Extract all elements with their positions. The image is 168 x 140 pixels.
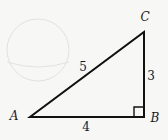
- vertex-label-b: B: [151, 112, 160, 124]
- vertex-label-a: A: [10, 110, 19, 122]
- right-angle-marker: [134, 107, 144, 117]
- triangle-abc: [30, 32, 144, 117]
- side-label-bc: 3: [147, 70, 155, 82]
- ghost-sphere: [7, 19, 69, 81]
- side-label-ac: 5: [79, 61, 87, 73]
- side-label-ab: 4: [82, 121, 90, 133]
- triangle-diagram: A B C 5 3 4: [0, 0, 168, 140]
- vertex-label-c: C: [140, 11, 149, 23]
